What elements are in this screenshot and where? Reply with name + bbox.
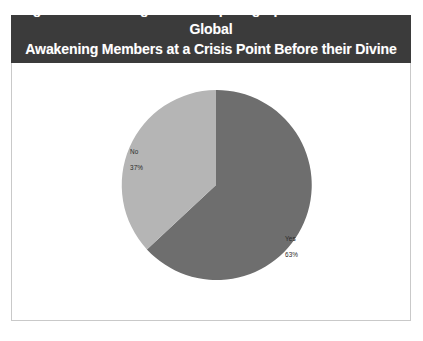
figure-title-banner: Figure 5. Percentage of Participating Ap…	[11, 15, 411, 63]
pie-label-yes-value: 63%	[285, 251, 298, 259]
pie-chart-svg	[12, 63, 412, 321]
pie-label-yes-name: Yes	[285, 235, 298, 243]
pie-label-no-value: 37%	[130, 164, 143, 172]
chart-plot-frame: No 37% Yes 63%	[11, 63, 411, 321]
pie-label-yes: Yes 63%	[285, 227, 298, 267]
figure-container: Figure 5. Percentage of Participating Ap…	[0, 0, 423, 341]
pie-label-no: No 37%	[130, 140, 143, 180]
pie-chart: No 37% Yes 63%	[12, 63, 412, 321]
pie-label-no-name: No	[130, 148, 143, 156]
